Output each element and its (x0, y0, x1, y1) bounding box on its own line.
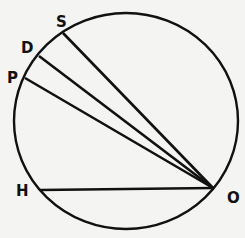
chord-o-p (25, 78, 213, 188)
chord-o-h (40, 188, 213, 190)
label-p: P (7, 69, 18, 87)
chord-o-s (63, 33, 213, 188)
label-o: O (227, 189, 240, 207)
label-h: H (16, 182, 29, 200)
circle-diagram: S D P H O (0, 0, 245, 238)
chord-o-d (39, 56, 213, 188)
label-s: S (56, 13, 67, 31)
label-d: D (21, 39, 33, 57)
diagram-canvas: S D P H O (0, 0, 245, 238)
